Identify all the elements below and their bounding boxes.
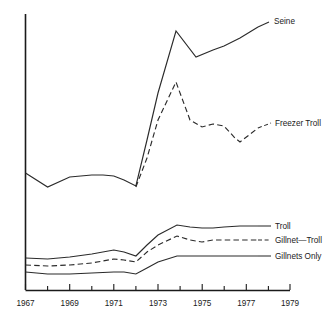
leader-line-freezer-troll: [258, 123, 271, 128]
series-label-gillnet-troll: Gillnet—Troll: [275, 236, 322, 245]
series-line-troll: [26, 225, 259, 259]
series-line-seine: [26, 27, 259, 187]
x-tick-label-1969: 1969: [61, 299, 80, 308]
x-tick-label-1971: 1971: [105, 299, 124, 308]
plot-area: 1967 1969 1971 1973 1975 1977 1979 Seine…: [0, 0, 328, 323]
x-tick-label-1975: 1975: [193, 299, 212, 308]
series-label-freezer-troll: Freezer Troll: [275, 119, 321, 128]
series-line-freezer-troll: [136, 82, 258, 187]
series-label-seine: Seine: [274, 17, 295, 26]
series-label-gillnets-only: Gillnets Only: [275, 252, 322, 261]
x-tick-label-1977: 1977: [237, 299, 256, 308]
x-tick-label-1979: 1979: [281, 299, 300, 308]
line-chart: 1967 1969 1971 1973 1975 1977 1979 Seine…: [0, 0, 328, 323]
x-tick-label-1967: 1967: [16, 299, 35, 308]
x-tick-label-1973: 1973: [149, 299, 168, 308]
x-axis-major-ticks: [26, 284, 291, 290]
leader-line-seine: [258, 22, 269, 27]
series-label-troll: Troll: [275, 222, 291, 231]
